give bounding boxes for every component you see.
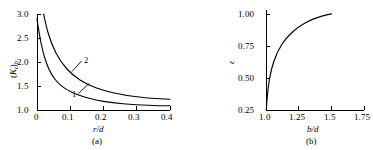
panel-a-y-axis-sub-t: t <box>12 67 19 69</box>
panel-b-ytick-label-0.75: 0.75 <box>238 42 254 51</box>
panel-a-curve-label-1: 1 <box>72 90 76 99</box>
panel-b-xtick-label-1.0: 1.0 <box>259 113 271 122</box>
panel-a-ytick-label-1.0: 1.0 <box>17 106 29 115</box>
panel-a-xtick-label-0.4: 0.4 <box>161 113 173 122</box>
panel-a-leader-1 <box>79 84 90 94</box>
panel-a-ytick-label-1.5: 1.5 <box>17 82 29 91</box>
panel-a-xtick-label-0.3: 0.3 <box>128 113 140 122</box>
chart-panel-b: 0.25 0.50 0.75 1.00 1.0 1.25 1.5 1.75 ε … <box>200 0 373 150</box>
chart-panel-a: 1.0 1.5 2.0 2.5 3.0 0 0.1 0.2 0.3 0.4 2 … <box>0 0 200 150</box>
panel-a-ytick-label-2.5: 2.5 <box>17 34 29 43</box>
panel-a-y-axis-close-paren: ) <box>8 64 18 67</box>
panel-a-y-axis-sub-b: b <box>12 61 19 64</box>
panel-a-ytick-label-3.0: 3.0 <box>17 10 29 19</box>
panel-b-xtick-label-1.25: 1.25 <box>289 113 305 122</box>
panel-b-axes <box>266 10 364 110</box>
panel-a-axes <box>37 14 170 110</box>
panel-b-y-axis-title: ε <box>227 60 236 64</box>
panel-a-leader-2 <box>72 61 82 72</box>
panel-a-xtick-label-0: 0 <box>34 113 39 122</box>
panel-b-plot <box>200 0 373 150</box>
panel-b-ytick-label-0.50: 0.50 <box>238 74 254 83</box>
panel-a-curve-label-2: 2 <box>84 56 88 65</box>
panel-a-xtick-label-0.2: 0.2 <box>95 113 107 122</box>
panel-b-ytick-label-0.25: 0.25 <box>238 106 254 115</box>
figure-root: 1.0 1.5 2.0 2.5 3.0 0 0.1 0.2 0.3 0.4 2 … <box>0 0 373 150</box>
panel-b-x-axis-title: b/d <box>307 125 319 134</box>
panel-b-caption: (b) <box>306 137 317 146</box>
panel-b-ytick-label-1.00: 1.00 <box>238 10 254 19</box>
panel-b-xtick-label-1.75: 1.75 <box>354 113 370 122</box>
panel-a-x-axis-title: r/d <box>93 125 104 134</box>
panel-a-y-axis-open-paren: ( <box>8 75 18 78</box>
panel-a-y-axis-symbol: K <box>8 69 18 75</box>
panel-a-caption: (a) <box>92 137 102 146</box>
panel-a-y-axis-title: (Kt)b <box>9 61 19 78</box>
panel-b-curve <box>266 14 331 110</box>
panel-a-xtick-label-0.1: 0.1 <box>62 113 74 122</box>
panel-a-curve-1 <box>37 19 170 106</box>
panel-b-xtick-label-1.5: 1.5 <box>324 113 336 122</box>
